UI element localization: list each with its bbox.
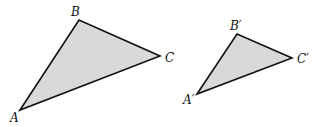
- triangle-abc-shape: [20, 20, 160, 110]
- triangle-abc: A B C: [9, 5, 174, 125]
- similar-triangles-diagram: A B C A′ B′ C′: [0, 0, 321, 127]
- vertex-label-c-prime: C′: [297, 52, 309, 66]
- vertex-label-a-prime: A′: [182, 93, 195, 107]
- triangle-a-prime-b-prime-c-prime: A′ B′ C′: [182, 19, 309, 107]
- vertex-label-b: B: [70, 5, 80, 19]
- vertex-label-c: C: [165, 51, 174, 65]
- triangle-a-prime-shape: [197, 34, 292, 94]
- vertex-label-a: A: [9, 111, 19, 125]
- vertex-label-b-prime: B′: [229, 19, 242, 33]
